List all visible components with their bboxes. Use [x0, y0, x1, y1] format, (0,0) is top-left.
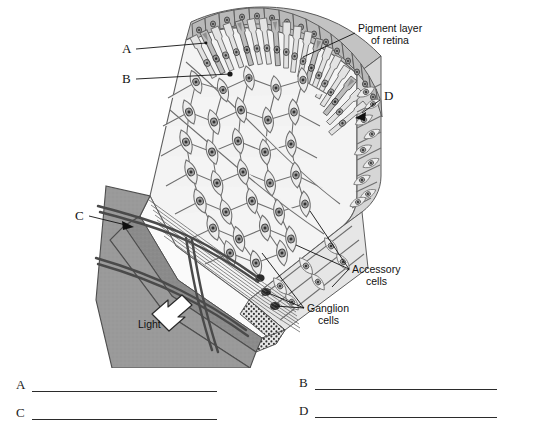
label-pigment-layer-line2: of retina	[371, 34, 409, 46]
answer-input-b[interactable]	[315, 389, 497, 390]
label-pigment-layer-line1: Pigment layer	[358, 22, 423, 34]
answer-row-d: D	[299, 404, 497, 418]
retina-diagram-svg: A B C D Pigment layer of retina	[0, 0, 537, 368]
answer-input-a[interactable]	[32, 391, 217, 392]
answer-row-c: C	[16, 406, 217, 420]
answer-row-a: A	[16, 378, 217, 392]
label-ganglion-cells-line2: cells	[318, 314, 339, 326]
answer-label-a: A	[16, 378, 25, 392]
label-ganglion-cells-line1: Ganglion	[307, 302, 349, 314]
answer-label-d: D	[299, 404, 308, 418]
label-accessory-cells-line2: cells	[366, 275, 387, 287]
label-light-text: Light	[138, 318, 161, 330]
callout-c-letter: C	[75, 208, 84, 223]
callout-a-letter: A	[122, 41, 132, 56]
answer-input-c[interactable]	[32, 419, 217, 420]
callout-b-letter: B	[122, 71, 131, 86]
answer-row-b: B	[299, 376, 497, 390]
answer-lines-section: A B C D	[0, 368, 537, 448]
label-light: Light	[138, 318, 161, 330]
answer-label-c: C	[16, 406, 25, 420]
answer-label-b: B	[299, 376, 308, 390]
answer-input-d[interactable]	[315, 417, 497, 418]
retina-diagram-figure: A B C D Pigment layer of retina	[0, 0, 537, 368]
callout-d-letter: D	[384, 88, 393, 103]
label-accessory-cells-line1: Accessory	[352, 263, 401, 275]
